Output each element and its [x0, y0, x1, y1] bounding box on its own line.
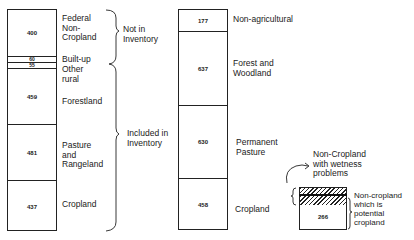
- curved-arrow-icon: [286, 165, 308, 183]
- label-wetness-problems: Non-Cropland with wetness problems: [313, 150, 366, 179]
- label-cropland-right: Cropland: [235, 205, 270, 215]
- potential-cropland-box: 266: [299, 205, 347, 230]
- hatched-wetness-area: [299, 187, 347, 205]
- segment-value: 458: [198, 202, 208, 208]
- label-included-in-inventory: Included in Inventory: [127, 129, 168, 148]
- wetness-divider-line: [299, 194, 347, 196]
- label-forest-woodland: Forest and Woodland: [233, 59, 274, 78]
- label-not-in-inventory: Not in Inventory: [123, 25, 158, 44]
- potential-cropland-value: 266: [318, 214, 328, 220]
- segment-value: 630: [198, 139, 208, 145]
- label-non-agricultural: Non-agricultural: [233, 15, 293, 25]
- segment-forest-woodland: 637: [179, 31, 227, 105]
- brace-wetness-icon: [291, 188, 296, 205]
- segment-permanent-pasture: 630: [179, 105, 227, 178]
- right-land-use-stack: 177 637 630 458: [178, 9, 228, 230]
- segment-value: 637: [198, 66, 208, 72]
- segment-value: 177: [198, 18, 208, 24]
- label-permanent-pasture: Permanent Pasture: [236, 138, 278, 157]
- segment-cropland-right: 458: [179, 178, 227, 231]
- brace-included-in-inventory-icon: [106, 64, 119, 231]
- brace-potential-cropland-icon: [348, 198, 352, 229]
- label-potential-cropland: Non-cropland which is potential cropland: [354, 191, 402, 227]
- segment-non-agricultural: 177: [179, 10, 227, 31]
- brace-not-in-inventory-icon: [106, 10, 119, 64]
